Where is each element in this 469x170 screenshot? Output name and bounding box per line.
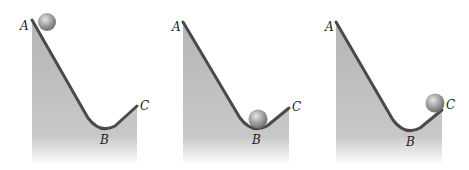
panel-ball-at-b: A B C [155,0,311,170]
ball [426,94,445,113]
label-a: A [20,19,29,33]
ground-fill [183,22,289,165]
label-b: B [406,135,415,149]
label-a: A [172,20,181,34]
panel-ball-at-a: A B C [0,0,156,170]
ball [249,110,268,129]
ground-fill [336,22,442,165]
label-c: C [140,99,149,113]
panel-ball-at-c: A B C [310,0,466,170]
label-c: C [446,98,455,112]
label-b: B [252,133,261,147]
label-b: B [100,133,109,147]
label-c: C [292,100,301,114]
ball [38,13,56,31]
label-a: A [325,20,334,34]
ground-fill [32,20,137,165]
